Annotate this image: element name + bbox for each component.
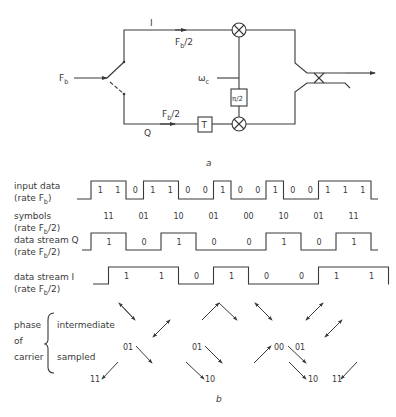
- i-rate-label: Fb/2: [175, 37, 193, 50]
- bit-value: 1: [325, 186, 330, 195]
- phase-vectors: [102, 303, 357, 379]
- phase-shift-label: π/2: [232, 95, 243, 103]
- data-stream-q-waveform: 10100101: [82, 233, 378, 250]
- caption-a: a: [206, 158, 212, 168]
- input-data-waveform: 1101100100100111: [77, 181, 378, 199]
- svg-text:11: 11: [90, 375, 100, 384]
- bit-value: 1: [107, 238, 112, 247]
- bit-value: 1: [150, 186, 155, 195]
- oqpsk-diagram: Fb I Fb/2 Q Fb/2 T: [0, 0, 396, 417]
- bit-value: 1: [98, 186, 103, 195]
- bit-value: 0: [133, 186, 138, 195]
- svg-text:carrier: carrier: [14, 352, 44, 362]
- svg-text:10: 10: [205, 375, 215, 384]
- bit-value: 1: [334, 272, 339, 281]
- bit-value: 1: [352, 238, 357, 247]
- row-labels: input data (rate Fb) symbols (rate Fb/2)…: [14, 181, 79, 297]
- symbol-value: 11: [104, 212, 114, 221]
- svg-text:of: of: [14, 336, 24, 346]
- bit-value: 1: [229, 272, 234, 281]
- i-branch-label: I: [150, 18, 153, 28]
- rate-input-data: (rate Fb): [14, 193, 52, 206]
- mixer-i-icon: [232, 23, 246, 37]
- svg-text:11: 11: [332, 375, 342, 384]
- label-data-stream-i: data stream I: [14, 272, 74, 282]
- bit-value: 1: [115, 186, 120, 195]
- bit-value: 0: [194, 272, 199, 281]
- bit-value: 0: [203, 186, 208, 195]
- bit-value: 1: [220, 186, 225, 195]
- symbol-value: 01: [209, 212, 219, 221]
- modulator-block-diagram: Fb I Fb/2 Q Fb/2 T: [59, 18, 375, 168]
- symbols-row: 1101100100100111: [104, 212, 359, 221]
- caption-b: b: [216, 394, 222, 404]
- q-rate-label: Fb/2: [162, 109, 180, 122]
- svg-text:00: 00: [274, 343, 284, 352]
- q-output-line: [246, 83, 350, 124]
- rate-data-stream-q: (rate Fb/2): [14, 247, 60, 260]
- data-stream-i-waveform: 11010011: [93, 267, 389, 284]
- delay-label: T: [201, 120, 208, 130]
- label-input-data: input data: [14, 181, 60, 191]
- bit-value: 1: [369, 272, 374, 281]
- symbol-value: 00: [244, 212, 254, 221]
- i-output-line: [246, 30, 345, 73]
- bit-value: 1: [282, 238, 287, 247]
- bit-value: 0: [317, 238, 322, 247]
- q-branch-label: Q: [144, 128, 151, 138]
- input-label: Fb: [59, 73, 68, 86]
- bit-value: 0: [264, 272, 269, 281]
- label-data-stream-q: data stream Q: [14, 235, 79, 245]
- svg-text:intermediate: intermediate: [57, 320, 115, 330]
- carrier-label: ωc: [198, 73, 210, 86]
- q-branch-line: [124, 94, 198, 124]
- bit-value: 1: [273, 186, 278, 195]
- symbol-value: 10: [279, 212, 289, 221]
- bit-value: 1: [360, 186, 365, 195]
- label-symbols: symbols: [14, 211, 52, 221]
- bit-value: 0: [299, 272, 304, 281]
- bit-value: 1: [159, 272, 164, 281]
- symbol-value: 11: [349, 212, 359, 221]
- rate-data-stream-i: (rate Fb/2): [14, 284, 60, 297]
- svg-text:01: 01: [192, 343, 202, 352]
- bit-value: 0: [308, 186, 313, 195]
- bit-value: 0: [185, 186, 190, 195]
- symbol-value: 01: [314, 212, 324, 221]
- bit-value: 0: [212, 238, 217, 247]
- bit-value: 0: [142, 238, 147, 247]
- bit-value: 0: [238, 186, 243, 195]
- svg-text:phase: phase: [14, 320, 42, 330]
- mixer-q-icon: [232, 117, 246, 131]
- bit-value: 1: [177, 238, 182, 247]
- symbol-value: 01: [139, 212, 149, 221]
- switch-upper: [107, 62, 124, 78]
- svg-text:10: 10: [308, 375, 318, 384]
- symbol-value: 10: [174, 212, 184, 221]
- bit-value: 0: [247, 238, 252, 247]
- bit-value: 1: [124, 272, 129, 281]
- bit-value: 0: [290, 186, 295, 195]
- bit-value: 1: [343, 186, 348, 195]
- svg-text:sampled: sampled: [57, 352, 95, 362]
- svg-text:01: 01: [295, 343, 305, 352]
- phase-of-carrier-group: phase of carrier intermediate sampled: [14, 313, 115, 373]
- brace-icon: [45, 313, 54, 373]
- bit-value: 0: [255, 186, 260, 195]
- rate-symbols: (rate Fb/2): [14, 223, 60, 236]
- bit-value: 1: [168, 186, 173, 195]
- svg-text:01: 01: [123, 343, 133, 352]
- switch-lower: [110, 82, 124, 94]
